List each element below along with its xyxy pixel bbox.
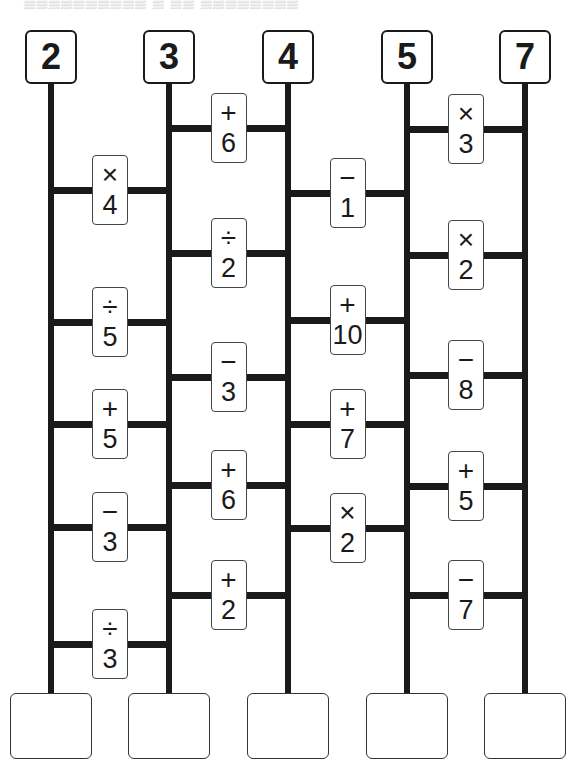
answer-box[interactable]	[10, 693, 92, 759]
answer-box[interactable]	[247, 693, 329, 759]
ladder-rail	[285, 84, 291, 693]
operand-number: 6	[221, 486, 236, 514]
operation-card: ×2	[330, 493, 366, 563]
operator-symbol: +	[339, 395, 355, 425]
operator-symbol: +	[220, 99, 236, 129]
operand-number: 2	[340, 529, 355, 557]
operator-symbol: +	[339, 291, 355, 321]
start-number-box: 5	[381, 30, 433, 84]
operand-number: 5	[102, 323, 117, 351]
answer-box[interactable]	[366, 693, 448, 759]
operation-card: +10	[330, 285, 366, 355]
operator-symbol: +	[102, 395, 118, 425]
operator-symbol: ÷	[102, 615, 117, 645]
operation-card: ×3	[448, 94, 484, 164]
operand-number: 7	[340, 425, 355, 453]
operand-number: 1	[340, 194, 355, 222]
operator-symbol: +	[458, 457, 474, 487]
operation-card: +6	[211, 450, 247, 520]
operator-symbol: ×	[102, 161, 118, 191]
start-number-box: 2	[25, 30, 77, 84]
start-number-box: 4	[262, 30, 314, 84]
operand-number: 2	[458, 256, 473, 284]
operator-symbol: ×	[339, 499, 355, 529]
operator-symbol: ×	[458, 100, 474, 130]
ladder-rail	[166, 84, 172, 693]
operation-card: +5	[448, 451, 484, 521]
operator-symbol: −	[339, 164, 355, 194]
ladder-rail	[522, 84, 528, 693]
answer-box[interactable]	[128, 693, 210, 759]
ladder-rail	[48, 84, 54, 693]
operator-symbol: −	[102, 498, 118, 528]
start-number-box: 3	[143, 30, 195, 84]
operation-card: ÷2	[211, 218, 247, 288]
operation-card: −7	[448, 560, 484, 630]
operation-card: ×4	[92, 155, 128, 225]
operation-card: +5	[92, 389, 128, 459]
clipped-instruction-text: ▒▒▒▒▒▒▒▒▒▒ ▒ ▒▒ ▒▒▒▒▒▒▒▒	[24, 0, 299, 5]
operation-card: −1	[330, 158, 366, 228]
operator-symbol: ×	[458, 226, 474, 256]
operand-number: 2	[221, 596, 236, 624]
answer-box[interactable]	[484, 693, 566, 759]
operation-card: −8	[448, 340, 484, 410]
operator-symbol: ÷	[221, 224, 236, 254]
operand-number: 7	[458, 596, 473, 624]
operation-card: +6	[211, 93, 247, 163]
operator-symbol: ÷	[102, 293, 117, 323]
operand-number: 3	[102, 528, 117, 556]
operand-number: 4	[102, 191, 117, 219]
operation-card: ÷5	[92, 287, 128, 357]
operator-symbol: −	[220, 348, 236, 378]
operation-card: −3	[92, 492, 128, 562]
operation-card: ×2	[448, 220, 484, 290]
operation-card: +2	[211, 560, 247, 630]
operator-symbol: +	[220, 456, 236, 486]
operation-card: −3	[211, 342, 247, 412]
operand-number: 3	[102, 645, 117, 673]
operation-card: ÷3	[92, 609, 128, 679]
operand-number: 5	[458, 487, 473, 515]
ladder-rail	[404, 84, 410, 693]
operand-number: 2	[221, 254, 236, 282]
operand-number: 8	[458, 376, 473, 404]
operator-symbol: −	[458, 346, 474, 376]
operand-number: 10	[332, 321, 362, 349]
operand-number: 3	[458, 130, 473, 158]
operand-number: 6	[221, 129, 236, 157]
operator-symbol: +	[220, 566, 236, 596]
operand-number: 5	[102, 425, 117, 453]
operation-card: +7	[330, 389, 366, 459]
start-number-box: 7	[499, 30, 551, 84]
operand-number: 3	[221, 378, 236, 406]
operator-symbol: −	[458, 566, 474, 596]
